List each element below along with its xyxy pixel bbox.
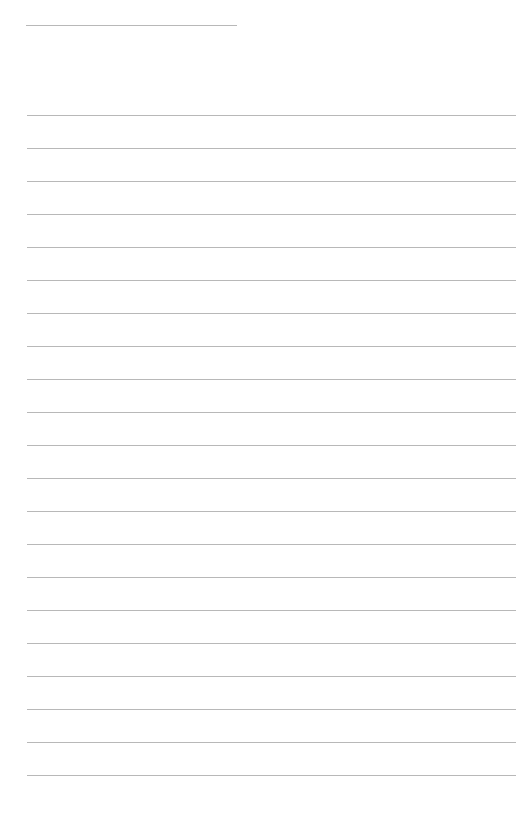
ruled-line bbox=[27, 544, 516, 545]
ruled-line bbox=[27, 148, 516, 149]
ruled-line bbox=[27, 577, 516, 578]
ruled-line bbox=[27, 247, 516, 248]
ruled-line bbox=[27, 709, 516, 710]
ruled-line bbox=[27, 379, 516, 380]
ruled-line bbox=[27, 214, 516, 215]
ruled-line bbox=[27, 742, 516, 743]
ruled-line bbox=[27, 775, 516, 776]
ruled-line bbox=[27, 115, 516, 116]
ruled-line bbox=[27, 610, 516, 611]
header-title-line bbox=[26, 25, 237, 26]
ruled-line bbox=[27, 478, 516, 479]
ruled-line bbox=[27, 346, 516, 347]
lined-page bbox=[0, 0, 525, 831]
ruled-line bbox=[27, 280, 516, 281]
ruled-line bbox=[27, 511, 516, 512]
ruled-line bbox=[27, 676, 516, 677]
ruled-line bbox=[27, 643, 516, 644]
ruled-line bbox=[27, 445, 516, 446]
ruled-line bbox=[27, 313, 516, 314]
ruled-line bbox=[27, 412, 516, 413]
ruled-line bbox=[27, 181, 516, 182]
